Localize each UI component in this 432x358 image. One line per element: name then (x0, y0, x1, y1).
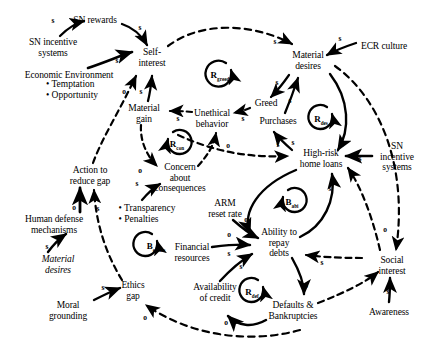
link-polarity-l22: s (46, 242, 49, 251)
link-polarity-l1: s (52, 16, 55, 25)
link-polarity-l16: o (349, 167, 353, 176)
edge-sn-rewards-to-self-interest (122, 24, 147, 45)
node-defaults-bankruptcies: Defaults &Bankruptcies (269, 300, 318, 321)
node-sn-incentive-systems-right: SNincentivesystems (380, 141, 414, 173)
link-polarity-l7: s (339, 34, 342, 43)
node-action-to-reduce-gap: Action toreduce gap (70, 165, 110, 186)
edge-availability-to-ability-repay (220, 254, 252, 281)
edge-ability-repay-to-defaults (292, 258, 304, 294)
edge-concern-to-unethical (198, 133, 216, 166)
link-polarity-l3: s (116, 56, 119, 65)
loop-label-b-abi: Babi (286, 197, 299, 209)
economic-environment-bullets: • Temptation• Opportunity (46, 79, 98, 100)
node-unethical-behavior: Unethicalbehavior (194, 108, 230, 129)
link-polarity-l33: o (383, 225, 387, 234)
link-polarity-l30: s (321, 258, 324, 267)
node-ethics-gap: Ethicsgap (121, 280, 144, 301)
node-availability-of-credit: Availabilityof credit (193, 282, 236, 303)
edge-financial-resources-to-ability-repay (212, 245, 250, 247)
link-polarity-l2: s (139, 23, 142, 32)
edge-ecr-culture-to-material-desires (327, 43, 356, 55)
node-concern-about-consequences: Concernaboutconsequences (154, 162, 205, 194)
link-polarity-l6: s (274, 37, 277, 46)
link-polarity-l24: o (143, 313, 147, 322)
node-awareness: Awareness (369, 307, 409, 318)
edge-defaults-to-social-interest (318, 272, 378, 303)
node-material-desires: Materialdesires (292, 50, 323, 71)
edge-moral-grounding-to-ethics-gap (94, 288, 120, 300)
node-social-interest: Socialinterest (378, 255, 405, 276)
node-ability-to-repay-debts: Ability torepaydebts (261, 227, 297, 259)
link-polarity-l29: s (329, 184, 332, 193)
edge-greed-to-unethical (234, 108, 250, 113)
node-sn-rewards: SN rewards (73, 15, 117, 26)
node-arm-reset-rate: ARMreset rate (208, 198, 242, 219)
causal-loop-diagram: SN rewards SN incentivesystems Economic … (0, 0, 432, 358)
link-polarity-l4: o (122, 87, 126, 96)
edge-unethical-to-highrisk (178, 135, 288, 156)
link-polarity-l17: o (226, 141, 230, 150)
edge-material-gain-to-concern (141, 125, 157, 166)
node-human-defense-mechanisms: Human defensemechanisms (25, 214, 83, 235)
link-polarity-l28: s (240, 262, 243, 271)
link-polarity-l13: s (277, 140, 280, 149)
edge-material-gain-to-self-interest (148, 76, 152, 101)
node-sn-incentive-systems-left: SN incentivesystems (29, 37, 77, 58)
node-greed: Greed (255, 98, 278, 109)
edge-social-interest-to-ability-repay (306, 255, 362, 258)
node-purchases: Purchases (259, 116, 296, 127)
node-material-gain: Materialgain (128, 103, 159, 124)
transparency-penalties-bullets: • Transparency• Penalties (119, 203, 176, 224)
node-financial-resources: Financialresources (175, 242, 210, 263)
link-polarity-l19: s (136, 179, 139, 188)
link-polarity-l18: o (138, 166, 142, 175)
edge-material-desires-italic-to-human-defense (48, 234, 66, 252)
link-polarity-l20: o (72, 203, 76, 212)
node-high-risk-home-loans: High-riskhome loans (300, 148, 343, 169)
link-polarity-l9: s (289, 96, 292, 105)
edge-social-interest-to-highrisk (348, 168, 380, 250)
link-polarity-l10: s (177, 114, 180, 123)
loop-label-r-def: Rdef (245, 287, 258, 299)
link-polarity-l26: o (227, 230, 231, 239)
loop-label-r-con: Rcon (170, 139, 184, 151)
node-moral-grounding: Moralgrounding (49, 300, 87, 321)
edge-material-desires-to-greed (271, 75, 289, 97)
link-polarity-l31: o (304, 281, 308, 290)
edge-defaults-to-availability (228, 316, 266, 325)
link-polarity-l15: s (359, 154, 362, 163)
edge-sn-incentive-to-self-interest (88, 52, 132, 68)
link-polarity-l32: o (224, 318, 228, 327)
node-self-interest: Self-interest (138, 47, 165, 68)
link-polarity-l34: s (387, 287, 390, 296)
link-polarity-l12: s (292, 138, 295, 147)
link-polarity-l8: s (276, 78, 279, 87)
link-polarity-l5: s (140, 87, 143, 96)
link-polarity-l11: s (242, 114, 245, 123)
link-polarity-l21: s (97, 204, 100, 213)
link-polarity-l14: s (341, 140, 344, 149)
loop-label-r-des: Rdes (314, 114, 328, 126)
link-polarity-l25: o (244, 215, 248, 224)
node-ecr-culture: ECR culture (361, 41, 407, 52)
link-polarity-l23: s (102, 283, 105, 292)
edge-unethical-to-material-gain (170, 111, 192, 112)
loop-label-b-ethics: Bethics (147, 241, 166, 253)
link-polarity-l27: s (228, 249, 231, 258)
node-material-desires-italic: Materialdesires (42, 254, 74, 275)
loop-label-r-greed: Rgreed (211, 70, 230, 82)
edge-material-desires-to-highrisk (330, 74, 346, 150)
